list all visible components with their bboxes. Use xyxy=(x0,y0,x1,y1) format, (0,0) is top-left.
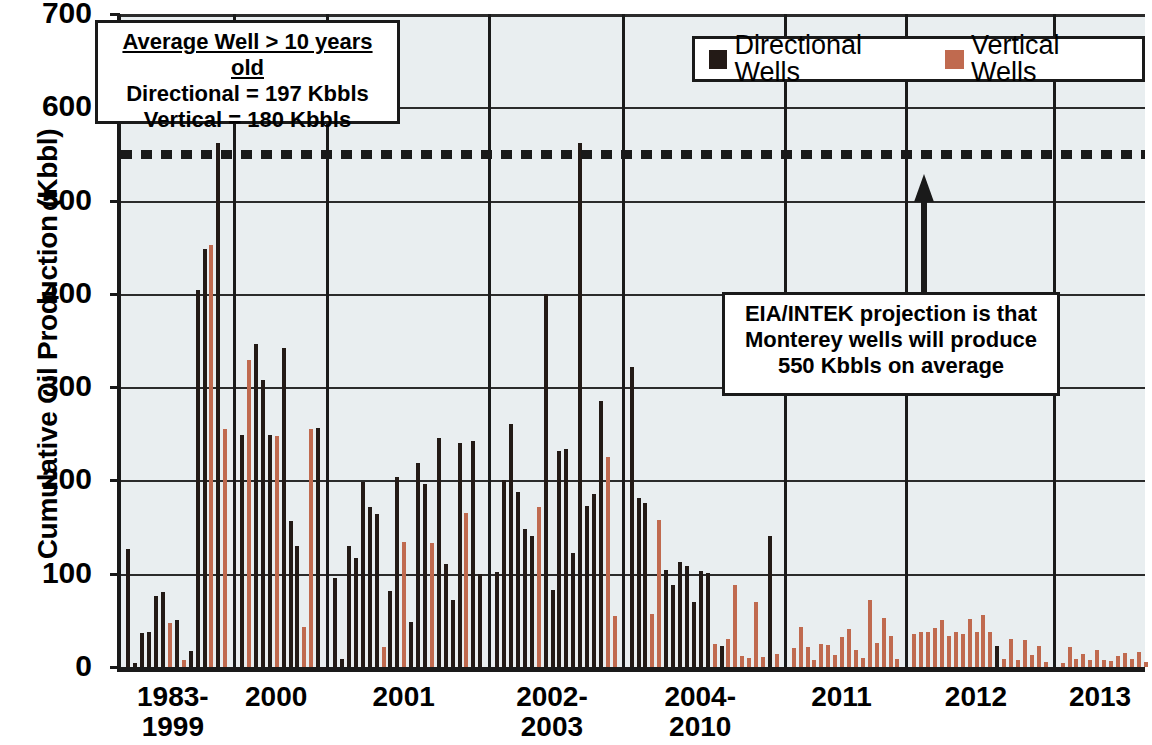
callout-projection-line1: EIA/INTEK projection is that xyxy=(735,301,1047,327)
bar xyxy=(189,651,193,667)
bar xyxy=(182,660,186,667)
bar xyxy=(1137,652,1141,667)
bar xyxy=(530,536,534,667)
bar xyxy=(1002,659,1006,667)
bar xyxy=(768,536,772,667)
bar xyxy=(650,614,654,667)
bar xyxy=(147,632,151,667)
bar xyxy=(833,655,837,667)
bar xyxy=(1074,659,1078,667)
bar xyxy=(599,401,603,667)
bar xyxy=(747,658,751,667)
bar xyxy=(692,602,696,667)
bar xyxy=(606,457,610,667)
bar xyxy=(1044,662,1048,667)
bar xyxy=(657,520,661,667)
bar xyxy=(375,514,379,667)
bar xyxy=(792,648,796,667)
bar xyxy=(775,654,779,667)
bar xyxy=(409,622,413,667)
bar xyxy=(347,546,351,667)
bar xyxy=(1144,662,1148,667)
bar xyxy=(495,572,499,667)
bar xyxy=(840,637,844,667)
bar xyxy=(451,600,455,667)
bar xyxy=(458,443,462,667)
bar xyxy=(478,574,482,667)
bar xyxy=(1130,659,1134,667)
projection-arrow-icon xyxy=(913,172,935,294)
bar xyxy=(1081,654,1085,667)
bar xyxy=(1061,663,1065,667)
bar xyxy=(947,636,951,667)
callout-average-line3: Vertical = 180 Kbbls xyxy=(108,107,387,133)
bar xyxy=(1102,660,1106,667)
legend-label: Vertical Wells xyxy=(971,32,1128,86)
bar xyxy=(516,492,520,667)
bar xyxy=(302,627,306,667)
bar xyxy=(1016,660,1020,667)
bar xyxy=(333,578,337,667)
category-separator xyxy=(622,14,625,667)
bar xyxy=(388,591,392,667)
bar xyxy=(1109,661,1113,667)
bar xyxy=(713,644,717,667)
bar xyxy=(868,600,872,667)
callout-average-heading: Average Well > 10 years old xyxy=(108,29,387,81)
bar xyxy=(1088,660,1092,667)
bar xyxy=(557,451,561,667)
legend-label: Directional Wells xyxy=(734,32,929,86)
bar xyxy=(912,634,916,667)
bar xyxy=(161,592,165,667)
bar xyxy=(254,344,258,667)
bar xyxy=(175,620,179,667)
bar xyxy=(209,245,213,667)
callout-projection-line2: Monterey wells will produce xyxy=(735,327,1047,353)
y-tick-label: 400 xyxy=(12,278,92,308)
bar xyxy=(423,484,427,667)
bar xyxy=(551,590,555,667)
bar xyxy=(664,570,668,667)
bar xyxy=(988,632,992,667)
bar xyxy=(726,639,730,667)
bar xyxy=(354,558,358,667)
bar xyxy=(268,435,272,667)
bar xyxy=(968,619,972,667)
bar xyxy=(685,566,689,667)
bar xyxy=(126,549,130,667)
bar xyxy=(395,477,399,667)
legend-entry[interactable]: Directional Wells xyxy=(709,32,929,86)
bar xyxy=(544,294,548,667)
bar xyxy=(754,602,758,667)
bar xyxy=(706,573,710,667)
bar xyxy=(502,480,506,667)
bar xyxy=(196,290,200,667)
y-tick-label: 200 xyxy=(12,464,92,494)
legend-entry[interactable]: Vertical Wells xyxy=(945,32,1128,86)
bar xyxy=(889,636,893,667)
bar xyxy=(223,429,227,667)
bar xyxy=(340,659,344,667)
bar xyxy=(203,249,207,667)
bar xyxy=(981,615,985,667)
bar xyxy=(261,380,265,667)
bar xyxy=(671,585,675,667)
bar xyxy=(140,633,144,667)
bar xyxy=(761,657,765,667)
bar xyxy=(523,529,527,667)
bar xyxy=(471,441,475,667)
bar xyxy=(1123,653,1127,667)
gridline xyxy=(121,201,1145,203)
y-tick-label: 300 xyxy=(12,371,92,401)
bar xyxy=(464,513,468,667)
bar xyxy=(430,543,434,667)
bar xyxy=(309,429,313,667)
bar xyxy=(826,645,830,667)
bar xyxy=(247,360,251,667)
bar xyxy=(882,618,886,667)
bar xyxy=(806,647,810,667)
bar xyxy=(961,634,965,667)
bar xyxy=(368,507,372,667)
bar xyxy=(954,632,958,667)
